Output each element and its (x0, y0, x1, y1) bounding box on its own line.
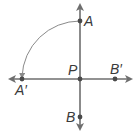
point-A (78, 19, 83, 24)
point-B-prime (113, 77, 118, 82)
label-P: P (68, 62, 78, 78)
label-B: B (66, 109, 75, 125)
point-P (78, 77, 83, 82)
label-A: A (83, 13, 93, 29)
point-B (78, 115, 83, 120)
rotation-diagram: A A′ P B′ B (0, 0, 135, 140)
label-A-prime: A′ (14, 82, 28, 98)
point-A-prime (20, 77, 25, 82)
label-B-prime: B′ (110, 61, 123, 77)
